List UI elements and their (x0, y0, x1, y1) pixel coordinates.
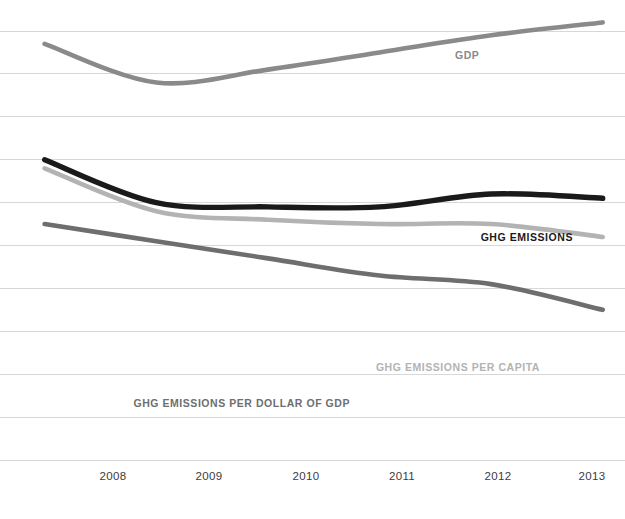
x-tick-2008: 2008 (100, 470, 127, 482)
series-label-ghg-emissions-per-dollar-of-gdp: GHG EMISSIONS PER DOLLAR OF GDP (133, 397, 350, 409)
x-tick-2012: 2012 (485, 470, 512, 482)
x-tick-2009: 2009 (196, 470, 223, 482)
x-tick-2011: 2011 (389, 470, 415, 482)
series-label-gdp: GDP (455, 49, 479, 61)
chart-container: 200820092010201120122013 GDPGHG EMISSION… (0, 0, 625, 519)
x-tick-2010: 2010 (293, 470, 320, 482)
line-chart-canvas (0, 0, 625, 519)
x-tick-2013: 2013 (579, 470, 606, 482)
series-lines (45, 22, 603, 309)
series-label-ghg-emissions-per-capita: GHG EMISSIONS PER CAPITA (376, 361, 540, 373)
series-label-ghg-emissions: GHG EMISSIONS (481, 231, 573, 243)
gridlines (0, 31, 625, 460)
